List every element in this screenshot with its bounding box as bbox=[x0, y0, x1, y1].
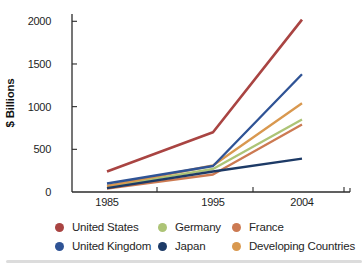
x-tick-label: 1995 bbox=[201, 196, 224, 208]
legend-dot-germany bbox=[158, 223, 167, 232]
y-tick-label: 500 bbox=[34, 143, 52, 155]
legend-dot-france bbox=[232, 223, 241, 232]
y-tick-label: 1000 bbox=[28, 101, 51, 113]
y-tick-label: 1500 bbox=[28, 58, 51, 70]
legend-item-germany: Germany bbox=[158, 221, 232, 233]
series-line-japan bbox=[107, 159, 302, 189]
legend-label-japan: Japan bbox=[175, 240, 205, 252]
legend-label-united-states: United States bbox=[72, 221, 138, 233]
legend-label-france: France bbox=[249, 221, 284, 233]
axes: 0500100015002000198519952004 bbox=[28, 14, 350, 208]
x-tick-label: 2004 bbox=[290, 196, 313, 208]
legend-item-developing-countries: Developing Countries bbox=[232, 240, 355, 252]
y-tick-label: 2000 bbox=[28, 15, 51, 27]
y-axis-title: $ Billions bbox=[4, 78, 16, 127]
series-line-united-kingdom bbox=[107, 74, 302, 183]
legend-label-united-kingdom: United Kingdom bbox=[72, 240, 151, 252]
legend-item-france: France bbox=[232, 221, 355, 233]
series-line-united-states bbox=[107, 20, 302, 172]
legend-dot-developing-countries bbox=[232, 242, 241, 251]
y-tick-label: 0 bbox=[45, 186, 51, 198]
legend-item-japan: Japan bbox=[158, 240, 232, 252]
legend-dot-united-kingdom bbox=[55, 242, 64, 251]
chart-legend: United StatesGermanyFranceUnited Kingdom… bbox=[55, 221, 355, 252]
legend-label-developing-countries: Developing Countries bbox=[249, 240, 355, 252]
x-tick-label: 1985 bbox=[95, 196, 118, 208]
legend-dot-united-states bbox=[55, 223, 64, 232]
series-lines bbox=[107, 20, 302, 189]
line-chart: 0500100015002000198519952004 $ Billions bbox=[0, 0, 362, 218]
legend-item-united-kingdom: United Kingdom bbox=[55, 240, 158, 252]
legend-label-germany: Germany bbox=[175, 221, 221, 233]
legend-dot-japan bbox=[158, 242, 167, 251]
legend-item-united-states: United States bbox=[55, 221, 158, 233]
